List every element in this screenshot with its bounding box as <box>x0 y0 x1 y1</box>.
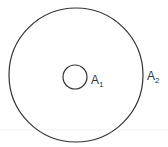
inner-circle-label: A1 <box>91 73 104 89</box>
inner-circle <box>63 65 87 89</box>
outer-circle <box>9 8 143 142</box>
concentric-circles-diagram: A1 A2 <box>0 0 168 147</box>
outer-circle-label: A2 <box>147 69 160 85</box>
